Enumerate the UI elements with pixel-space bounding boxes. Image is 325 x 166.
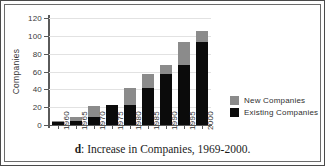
bar-group [67, 18, 85, 125]
bar-group [121, 18, 139, 125]
bar-group [49, 18, 67, 125]
x-axis-tick-label: 1975 [116, 111, 125, 130]
figure-caption: d: Increase in Companies, 1969-2000. [5, 143, 320, 155]
x-axis-tick [130, 125, 131, 129]
legend-label-new-companies: New Companies [244, 96, 305, 105]
bar-segment-new-companies [160, 65, 172, 74]
legend-item-existing-companies: Existing Companies [230, 107, 318, 118]
chart-legend: New Companies Existing Companies [230, 95, 318, 119]
x-axis-tick [112, 125, 113, 129]
y-axis-tick-label: 60 [33, 67, 42, 76]
x-axis-tick-label: 1970 [98, 111, 107, 130]
legend-swatch-new-companies [230, 96, 239, 105]
x-axis-tick-label: 1985 [152, 111, 161, 130]
x-axis-tick [76, 125, 77, 129]
bar-group [139, 18, 157, 125]
figure-panel: Companies 020406080100120 19601965197019… [0, 0, 325, 166]
y-axis-tick-label: 80 [33, 49, 42, 58]
bar-segment-new-companies [196, 31, 208, 42]
bars-group [49, 18, 211, 125]
y-axis-tick-label: 40 [33, 85, 42, 94]
bar-group [103, 18, 121, 125]
x-axis-tick-label: 1965 [80, 111, 89, 130]
caption-text: : Increase in Companies, 1969-2000. [81, 143, 250, 155]
x-axis-tick [184, 125, 185, 129]
legend-swatch-existing-companies [230, 108, 239, 117]
x-axis-tick-label: 1995 [188, 111, 197, 130]
x-axis-tick [148, 125, 149, 129]
bar-segment-new-companies [124, 88, 136, 104]
bar-group [157, 18, 175, 125]
y-axis-tick-label: 100 [28, 31, 42, 40]
y-axis-tick-label: 120 [28, 14, 42, 23]
x-axis-tick [166, 125, 167, 129]
bar-segment-new-companies [142, 74, 154, 88]
bar-group [85, 18, 103, 125]
y-axis-tick [44, 125, 49, 126]
bar-segment-new-companies [178, 42, 190, 65]
y-axis-title: Companies [11, 18, 22, 125]
figure-inner-border: Companies 020406080100120 19601965197019… [4, 4, 321, 162]
bar-group [175, 18, 193, 125]
y-axis-tick-label: 20 [33, 103, 42, 112]
x-axis-tick [58, 125, 59, 129]
legend-label-existing-companies: Existing Companies [244, 108, 318, 117]
x-axis-tick [94, 125, 95, 129]
x-axis-tick-label: 1990 [170, 111, 179, 130]
x-axis-tick-label: 2000 [206, 111, 215, 130]
y-axis-tick-label: 0 [37, 121, 42, 130]
legend-item-new-companies: New Companies [230, 95, 318, 106]
plot-area: 020406080100120 196019651970197519801985… [49, 18, 211, 125]
x-axis-tick [202, 125, 203, 129]
bar-group [193, 18, 211, 125]
x-axis-tick-label: 1980 [134, 111, 143, 130]
x-axis-tick-label: 1960 [62, 111, 71, 130]
